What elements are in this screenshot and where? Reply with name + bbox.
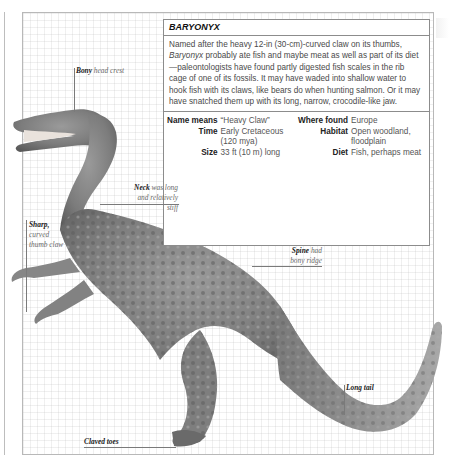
facts-column-left: Name means “Heavy Claw” Time Early Creta…: [167, 116, 298, 158]
leader-line-spine: [252, 266, 322, 267]
annotation-text: was long: [150, 183, 178, 192]
fact-label: Habitat: [298, 127, 348, 148]
fact-label: Time: [167, 127, 218, 148]
leader-line-head-crest: [74, 68, 75, 112]
fact-box-title: BARYONYX: [164, 20, 429, 36]
annotation-head-crest: Bony head crest: [76, 66, 124, 76]
leader-line-tail: [344, 385, 345, 415]
annotation-bold: Neck: [134, 183, 150, 192]
facts-column-right: Where found Europe Habitat Open woodland…: [298, 116, 426, 158]
annotation-text: head crest: [92, 66, 124, 75]
annotation-bold: Bony: [76, 66, 92, 75]
fact-label: Size: [167, 148, 218, 159]
species-name-italic: Baryonyx: [169, 51, 203, 60]
fact-label: Diet: [298, 148, 348, 159]
annotation-text: had: [309, 246, 322, 255]
leader-line-toes: [84, 447, 176, 448]
fact-box-description: Named after the heavy 12-in (30-cm)-curv…: [164, 36, 429, 111]
leader-line-neck: [100, 204, 179, 205]
description-text: probably ate fish and maybe meat as well…: [169, 51, 420, 106]
annotation-text: thumb claw: [29, 240, 63, 249]
fact-value: Open woodland, floodplain: [351, 127, 426, 148]
annotation-text: and relatively stiff: [137, 193, 178, 212]
description-text: Named after the heavy 12-in (30-cm)-curv…: [169, 40, 402, 49]
fact-label: Name means: [167, 116, 218, 127]
annotation-bold: Spine: [292, 246, 309, 255]
annotation-toes: Claved toes: [84, 437, 119, 447]
facts-table: Name means “Heavy Claw” Time Early Creta…: [164, 112, 429, 160]
annotation-tail: Long tail: [346, 383, 374, 393]
annotation-bold: Sharp,: [29, 220, 49, 229]
fact-label: Where found: [298, 116, 348, 127]
annotation-spine: Spine hadbony ridge: [290, 246, 322, 266]
annotation-bold: Claved toes: [84, 437, 119, 446]
fact-value: Fish, perhaps meat: [351, 148, 426, 159]
fact-value: 33 ft (10 m) long: [221, 148, 298, 159]
annotation-text: bony ridge: [290, 256, 322, 265]
fact-value: Europe: [351, 116, 426, 127]
annotation-thumb-claw: Sharp,curvedthumb claw: [29, 220, 63, 250]
fact-box: BARYONYX Named after the heavy 12-in (30…: [163, 19, 430, 246]
annotation-neck: Neck was longand relatively stiff: [126, 183, 178, 213]
fact-value: Early Cretaceous (120 mya): [221, 127, 298, 148]
leader-line-thumb-claw: [26, 220, 27, 312]
fact-value: “Heavy Claw”: [221, 116, 298, 127]
annotation-bold: Long tail: [346, 383, 374, 392]
annotation-text: curved: [29, 230, 49, 239]
